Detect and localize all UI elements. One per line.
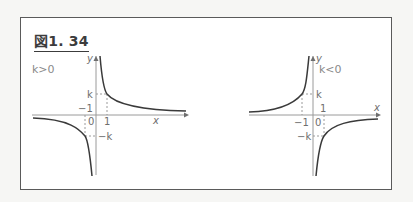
tick-label-negk: −k: [297, 131, 311, 142]
x-axis-label: x: [373, 102, 380, 113]
graph-k-negative: y x k 1 −1 0 −k: [0, 0, 413, 202]
tick-label-origin: 0: [315, 117, 321, 128]
x-axis-arrow-icon: [376, 113, 381, 118]
y-axis-label: y: [315, 53, 323, 64]
tick-label-1: 1: [320, 103, 326, 114]
y-axis-arrow-icon: [311, 56, 316, 61]
tick-label-k: k: [316, 89, 322, 100]
tick-label-neg1: −1: [294, 117, 309, 128]
curve-branch-q4: [316, 119, 378, 176]
curve-branch-q2: [249, 56, 309, 112]
